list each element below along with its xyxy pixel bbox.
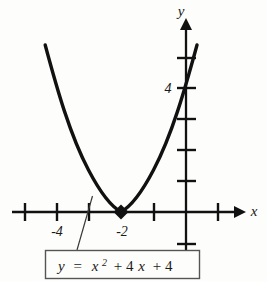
y-axis-arrowhead [180, 18, 192, 30]
x-axis-label: x [250, 203, 258, 219]
x-tick-label-minus2: -2 [116, 224, 128, 239]
equation-var: x [91, 258, 99, 274]
equation-term2: + 4 [114, 258, 134, 274]
equation-lhs: y [56, 258, 65, 274]
y-tick-label-4: 4 [165, 81, 172, 96]
y-axis-label: y [176, 3, 185, 19]
equation-exponent: 2 [102, 257, 107, 268]
equation-eq: = [73, 258, 81, 274]
equation-term3: + 4 [153, 258, 173, 274]
coordinate-plane: y x -4 -2 4 y = x 2 + 4 x + 4 [0, 0, 267, 282]
equation-var2: x [137, 258, 145, 274]
equation-callout: y = x 2 + 4 x + 4 [46, 251, 200, 279]
graph-figure: y x -4 -2 4 y = x 2 + 4 x + 4 [0, 0, 267, 282]
x-axis-arrowhead [234, 206, 246, 218]
annotation-leader-line [77, 196, 93, 250]
parabola-curve [45, 45, 197, 212]
x-tick-label-minus4: -4 [51, 224, 63, 239]
